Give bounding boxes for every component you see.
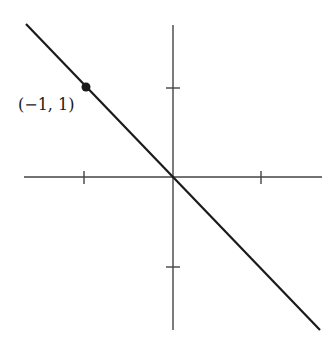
coordinate-plane: (−1, 1) bbox=[0, 0, 334, 345]
point-marker bbox=[82, 83, 91, 92]
point-label: (−1, 1) bbox=[18, 95, 74, 114]
